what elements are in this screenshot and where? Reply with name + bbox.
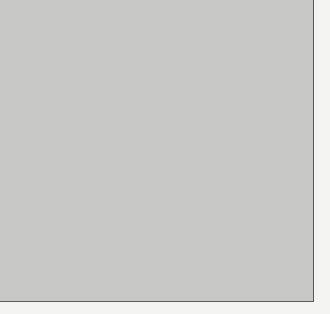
stem-chart — [0, 0, 330, 314]
